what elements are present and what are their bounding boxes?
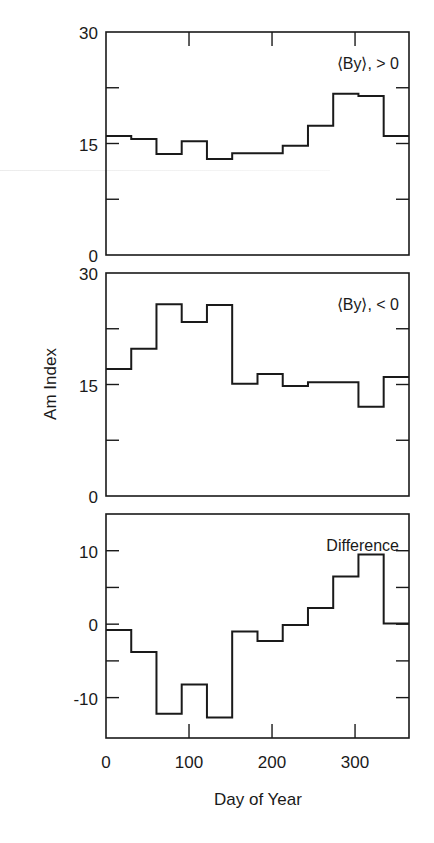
panel-by-negative: 01530⟨By⟩, < 0 (79, 265, 409, 507)
y-tick-label: 15 (79, 377, 98, 396)
x-tick-label: 300 (341, 753, 369, 772)
y-tick-label: 30 (79, 24, 98, 43)
y-tick-label: -10 (73, 690, 98, 709)
x-tick-label: 0 (101, 753, 110, 772)
x-axis-label: Day of Year (214, 790, 302, 809)
step-series-line (106, 94, 409, 159)
y-tick-label: 10 (79, 543, 98, 562)
y-tick-label: 0 (89, 616, 98, 635)
y-axis-label: Am Index (41, 348, 60, 420)
panel-by-positive: 01530⟨By⟩, > 0 (79, 24, 409, 266)
figure: 01530⟨By⟩, > 0 01530⟨By⟩, < 0 -100100100… (0, 0, 434, 843)
y-tick-label: 0 (89, 247, 98, 266)
x-tick-label: 200 (258, 753, 286, 772)
x-tick-label: 100 (175, 753, 203, 772)
panel-annotation: Difference (326, 537, 399, 554)
y-tick-label: 15 (79, 136, 98, 155)
step-series-line (106, 554, 409, 717)
panel-difference: -100100100200300Difference (73, 514, 409, 772)
y-tick-label: 30 (79, 265, 98, 284)
y-tick-label: 0 (89, 488, 98, 507)
panel-annotation: ⟨By⟩, < 0 (337, 296, 399, 313)
step-series-line (106, 304, 409, 407)
panel-annotation: ⟨By⟩, > 0 (337, 55, 399, 72)
